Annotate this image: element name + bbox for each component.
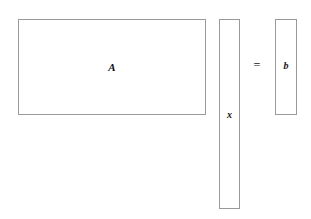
diagram-canvas: A x = b: [0, 0, 311, 219]
vector-b-block: b: [275, 19, 297, 115]
matrix-a-block: A: [18, 19, 206, 115]
vector-b-label: b: [276, 61, 296, 71]
equals-sign: =: [246, 57, 268, 73]
matrix-a-label: A: [19, 62, 205, 73]
vector-x-label: x: [220, 110, 239, 120]
vector-x-block: x: [219, 19, 240, 209]
